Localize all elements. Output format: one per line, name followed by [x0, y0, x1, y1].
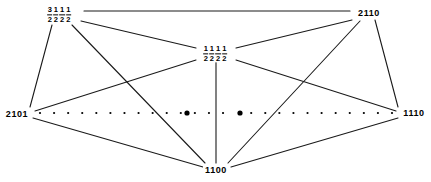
edge-1110-1100: [231, 118, 398, 167]
vertex-2101: 2101: [4, 109, 30, 120]
dotted-line-dot: [67, 112, 69, 114]
fraction-denominator: 2: [209, 54, 214, 63]
emphasized-dot-right: [237, 110, 242, 115]
half-half-half-half-fraction: 12: [203, 45, 208, 62]
fraction-numerator: 1: [209, 45, 214, 53]
dotted-line-dot: [208, 112, 210, 114]
edge-threehalves-center: [81, 21, 196, 48]
edges-group: [30, 11, 398, 167]
dotted-line-dot: [53, 112, 55, 114]
dotted-line-dot: [391, 112, 393, 114]
fraction-numerator: 3: [47, 6, 52, 14]
edge-center-2101: [35, 60, 196, 111]
half-half-half-half-fraction: 12: [222, 45, 227, 62]
dotted-line-dot: [95, 112, 97, 114]
edge-2110-center: [236, 20, 352, 48]
three-halves-half-half-half-fraction: 12: [66, 6, 71, 23]
graph-edges-layer: [0, 0, 431, 182]
dotted-line-dot: [109, 112, 111, 114]
fraction-numerator: 1: [222, 45, 227, 53]
fraction-numerator: 1: [60, 6, 65, 14]
fraction-denominator: 2: [203, 54, 208, 63]
fraction-numerator: 1: [216, 45, 221, 53]
three-halves-half-half-half-fraction: 32: [47, 6, 52, 23]
dotted-line-dot: [152, 112, 154, 114]
dotted-line-dot: [377, 112, 379, 114]
edge-2101-1100: [33, 118, 203, 167]
half-half-half-half-fraction: 12: [216, 45, 221, 62]
dotted-line-dot: [306, 112, 308, 114]
three-halves-half-half-half-fraction: 12: [60, 6, 65, 23]
dotted-line-dot: [321, 112, 323, 114]
dotted-line-dot: [363, 112, 365, 114]
dotted-line-dot: [222, 112, 224, 114]
dotted-line-dot: [292, 112, 294, 114]
fraction-numerator: 1: [203, 45, 208, 53]
dotted-line-dot: [349, 112, 351, 114]
edge-2110-1100: [228, 21, 360, 163]
fraction-denominator: 2: [66, 15, 71, 24]
dotted-line-dot: [39, 112, 41, 114]
fraction-denominator: 2: [60, 15, 65, 24]
dotted-line-dot: [278, 112, 280, 114]
graph-diagram: 32121212211012121212210111101100: [0, 0, 431, 182]
fraction-denominator: 2: [222, 54, 227, 63]
dotted-line-dot: [137, 112, 139, 114]
fraction-numerator: 1: [53, 6, 58, 14]
dotted-line-dot: [81, 112, 83, 114]
dotted-line-dot: [335, 112, 337, 114]
dotted-line-dot: [250, 112, 252, 114]
vertex-2110: 2110: [356, 8, 382, 19]
emphasized-dot-left: [184, 110, 189, 115]
fraction-numerator: 1: [66, 6, 71, 14]
edge-threehalves-2101: [30, 25, 52, 107]
edge-2110-1110: [375, 20, 398, 107]
fraction-denominator: 2: [53, 15, 58, 24]
fraction-denominator: 2: [216, 54, 221, 63]
half-half-half-half: 12121212: [202, 45, 228, 62]
vertex-1100: 1100: [203, 165, 229, 176]
fraction-denominator: 2: [47, 15, 52, 24]
three-halves-half-half-half-fraction: 12: [53, 6, 58, 23]
dotted-line-dot: [123, 112, 125, 114]
dotted-line-dot: [180, 112, 182, 114]
vertex-1110: 1110: [401, 108, 426, 119]
dotted-line-dot: [166, 112, 168, 114]
dotted-line-dot: [264, 112, 266, 114]
dotted-line-dot: [194, 112, 196, 114]
three-halves-half-half-half: 32121212: [46, 6, 72, 23]
half-half-half-half-fraction: 12: [209, 45, 214, 62]
